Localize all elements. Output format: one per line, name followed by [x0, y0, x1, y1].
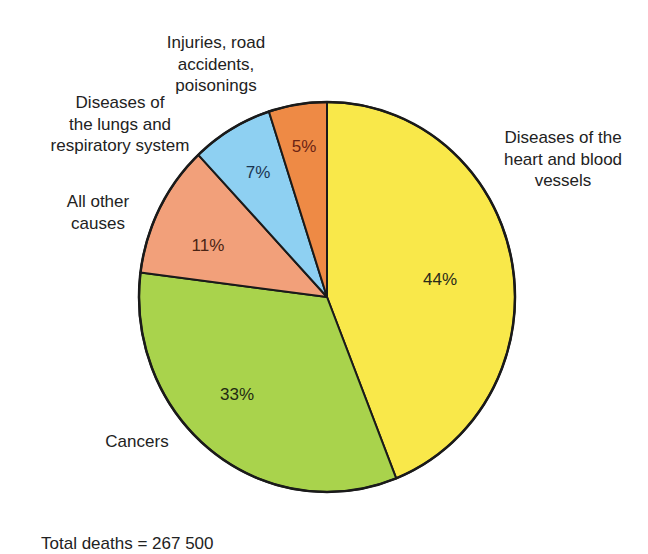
slice-category-label: Cancers: [105, 432, 168, 451]
slice-category-label: Injuries, roadaccidents,poisonings: [167, 33, 265, 95]
slice-category-label: Diseases of theheart and bloodvessels: [504, 128, 622, 190]
slice-percentage-label: 11%: [192, 236, 225, 255]
slice-percentage-label: 33%: [220, 385, 254, 404]
pie-chart: 44%33%11%7%5% Diseases of theheart and b…: [0, 0, 648, 554]
slice-category-label: All othercauses: [67, 192, 130, 233]
slice-percentage-label: 5%: [292, 137, 317, 156]
slice-category-label: Diseases ofthe lungs andrespiratory syst…: [51, 93, 190, 155]
total-deaths-footnote: Total deaths = 267 500: [41, 534, 214, 553]
slice-percentage-label: 7%: [246, 163, 271, 182]
slice-percentage-label: 44%: [423, 270, 457, 289]
pie-slices: [139, 102, 515, 492]
